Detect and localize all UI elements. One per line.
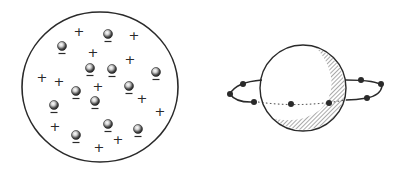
plus-sign: + [125, 52, 136, 67]
plum-pudding-atom: ++++++++++++ [22, 12, 178, 162]
orbit-electron [364, 95, 370, 101]
orbit-electron [240, 81, 246, 87]
plus-sign: + [129, 28, 140, 43]
electron [134, 125, 143, 137]
plus-sign: + [88, 45, 99, 60]
electron [108, 65, 117, 77]
electron [104, 30, 113, 42]
electron [152, 68, 161, 80]
electrons [50, 30, 161, 143]
plus-sign: + [37, 70, 48, 85]
electron [72, 131, 81, 143]
plus-sign: + [113, 132, 124, 147]
atomic-models-diagram: ++++++++++++ [0, 0, 393, 184]
orbit-electron [326, 100, 332, 106]
electron [125, 82, 134, 94]
plus-sign: + [74, 24, 85, 39]
orbit-right [346, 80, 382, 100]
plus-sign: + [155, 104, 166, 119]
plus-sign: + [54, 74, 65, 89]
planetary-atom [227, 45, 384, 131]
electron [72, 87, 81, 99]
orbit-electron [288, 101, 294, 107]
electron [104, 120, 113, 132]
electron [86, 64, 95, 76]
plus-sign: + [93, 79, 104, 94]
positive-charges: ++++++++++++ [37, 24, 166, 155]
electron [58, 42, 67, 54]
electron [50, 101, 59, 113]
orbit-electron [227, 91, 233, 97]
plus-sign: + [50, 119, 61, 134]
orbit-electron [251, 99, 257, 105]
orbit-electron [358, 77, 364, 83]
plus-sign: + [137, 91, 148, 106]
electron [91, 97, 100, 109]
plus-sign: + [94, 140, 105, 155]
orbit-left [230, 80, 262, 102]
orbit-electron [378, 81, 384, 87]
